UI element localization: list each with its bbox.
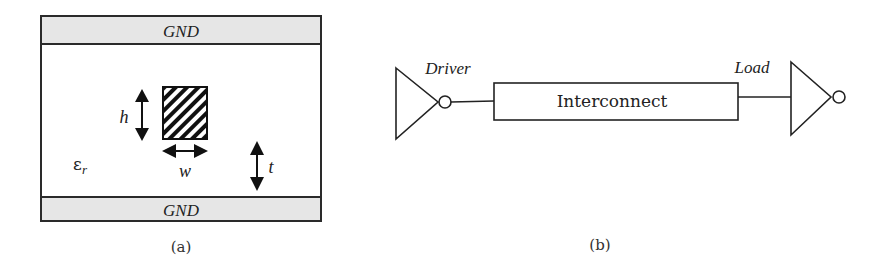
figure-canvas: GND GND h w t εr (a)	[0, 0, 885, 275]
signal-conductor	[163, 87, 207, 139]
bottom-ground-label: GND	[163, 201, 200, 220]
driver-label: Driver	[424, 59, 471, 78]
width-label: w	[179, 161, 191, 181]
panel-a-stripline: GND GND h w t εr (a)	[41, 16, 321, 256]
caption-b: (b)	[589, 236, 610, 254]
panel-b-circuit: Driver Interconnect Load (b)	[396, 58, 845, 254]
driver-inverter-icon	[396, 68, 451, 139]
top-ground-label: GND	[163, 22, 200, 41]
load-label: Load	[734, 58, 770, 77]
load-inverter-icon	[791, 62, 845, 135]
interconnect-label: Interconnect	[557, 91, 668, 111]
caption-a: (a)	[171, 238, 192, 256]
height-label: h	[120, 107, 129, 127]
input-wire	[451, 101, 494, 102]
